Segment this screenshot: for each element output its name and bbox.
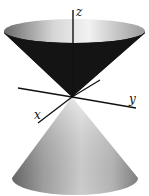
z-axis-label: z: [75, 5, 83, 19]
y-axis-front: [72, 97, 136, 108]
cone-figure: z y x: [0, 0, 149, 196]
y-axis-label: y: [128, 92, 136, 106]
upper-cone-rim: [4, 19, 145, 43]
double-cone-diagram: z y x: [0, 0, 149, 196]
x-axis-label: x: [34, 108, 41, 122]
